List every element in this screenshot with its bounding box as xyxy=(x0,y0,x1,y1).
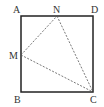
label-c: C xyxy=(90,94,97,105)
square-abcd xyxy=(21,16,93,92)
label-b: B xyxy=(14,94,21,105)
label-d: D xyxy=(91,4,98,15)
label-n: N xyxy=(53,4,60,15)
label-m: M xyxy=(9,50,18,61)
label-a: A xyxy=(13,4,21,15)
segment-mn xyxy=(21,16,57,55)
square-diagram: A N D M B C xyxy=(0,0,104,107)
segment-mc xyxy=(21,55,93,92)
segment-nc xyxy=(57,16,93,92)
